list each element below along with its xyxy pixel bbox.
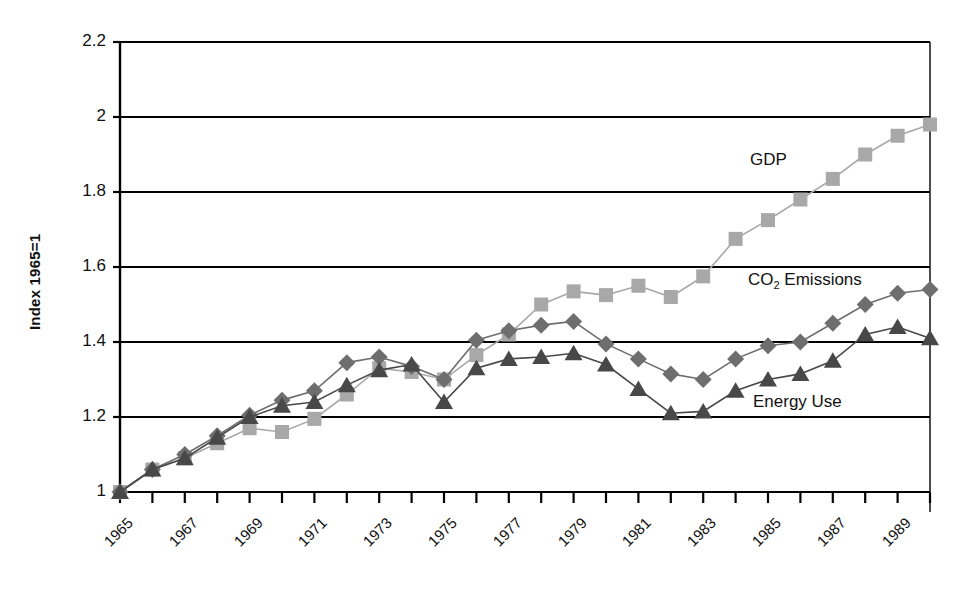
data-point-marker (534, 298, 548, 312)
data-point-marker (694, 403, 712, 419)
data-point-marker (305, 394, 323, 410)
data-point-marker (891, 129, 905, 143)
series-annotation: CO2 Emissions (748, 270, 862, 291)
data-point-marker (793, 193, 807, 207)
data-point-marker (631, 279, 645, 293)
data-point-marker (857, 296, 874, 313)
data-point-marker (630, 350, 647, 367)
data-point-marker (664, 290, 678, 304)
y-tick-label: 2.2 (54, 31, 106, 51)
data-point-marker (338, 377, 356, 393)
chart-container: Index 1965=1 2.221.81.61.41.211965196719… (0, 0, 980, 592)
data-point-marker (565, 313, 582, 330)
data-point-marker (791, 365, 809, 381)
series-annotation: GDP (750, 150, 787, 170)
data-point-marker (761, 213, 775, 227)
data-point-marker (662, 365, 679, 382)
data-point-marker (567, 284, 581, 298)
data-point-marker (760, 337, 777, 354)
data-point-marker (824, 352, 842, 368)
y-tick-label: 1.4 (54, 331, 106, 351)
data-point-marker (275, 425, 289, 439)
data-point-marker (695, 371, 712, 388)
series-annotation: Energy Use (753, 392, 842, 412)
data-point-marker (826, 172, 840, 186)
data-point-marker (565, 345, 583, 361)
data-point-marker (468, 332, 485, 349)
chart-plot-area (0, 0, 980, 592)
y-tick-label: 1.2 (54, 406, 106, 426)
series-gdp (113, 118, 937, 500)
data-point-marker (792, 334, 809, 351)
data-point-marker (629, 380, 647, 396)
data-point-marker (729, 232, 743, 246)
data-point-marker (598, 335, 615, 352)
data-point-marker (599, 288, 613, 302)
data-point-marker (889, 285, 906, 302)
y-tick-label: 2 (54, 106, 106, 126)
y-tick-label: 1.8 (54, 181, 106, 201)
data-point-marker (727, 350, 744, 367)
data-point-marker (889, 319, 907, 335)
data-point-marker (727, 382, 745, 398)
data-point-marker (307, 412, 321, 426)
data-point-marker (923, 118, 937, 132)
data-point-marker (597, 356, 615, 372)
data-point-marker (824, 315, 841, 332)
data-point-marker (858, 148, 872, 162)
data-point-marker (533, 317, 550, 334)
data-point-marker (696, 269, 710, 283)
y-tick-label: 1 (54, 481, 106, 501)
series-line (120, 125, 930, 493)
y-axis-title: Index 1965=1 (26, 234, 43, 330)
y-tick-label: 1.6 (54, 256, 106, 276)
data-point-marker (921, 330, 939, 346)
series-co2-emissions (112, 281, 939, 501)
data-point-marker (922, 281, 939, 298)
